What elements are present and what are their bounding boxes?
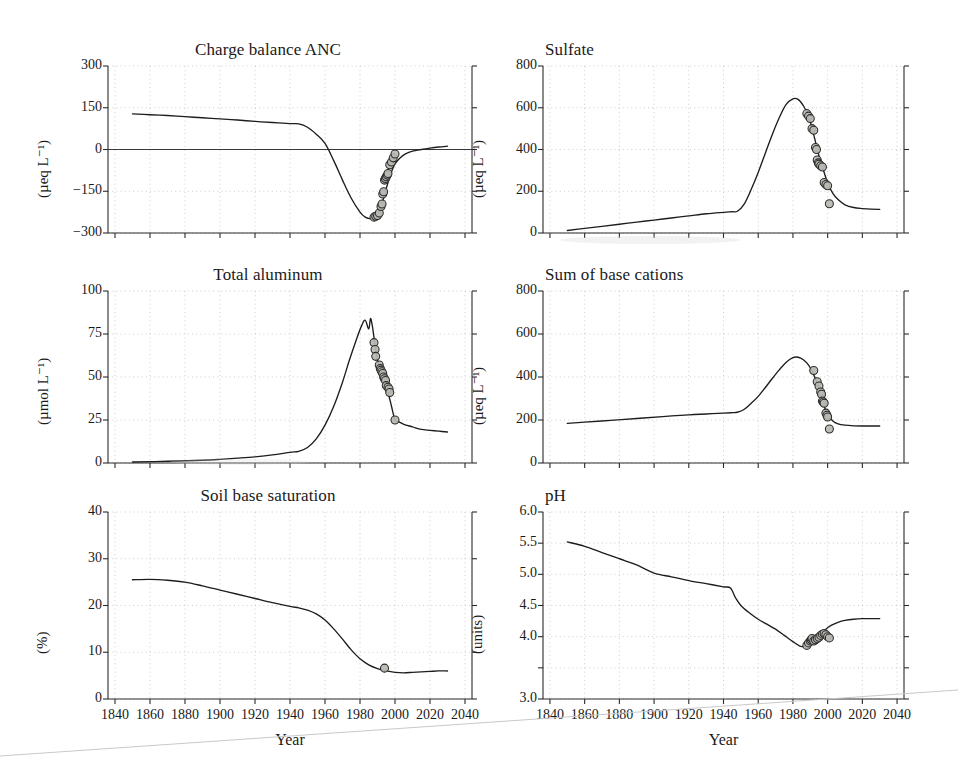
plot-canvas-ph [0,0,958,774]
ytick-label-ph: 5.5 [481,534,537,550]
x-axis-label-ph: Year [664,731,784,749]
xtick-label-ph: 2040 [867,707,927,723]
panel-ph [0,0,958,774]
ytick-label-ph: 4.5 [481,597,537,613]
ytick-label-ph: 4.0 [481,628,537,644]
ytick-label-ph: 5.0 [481,565,537,581]
series-line-ph [567,542,879,647]
panel-title-ph: pH [545,486,566,506]
y-axis-label-ph: (units) [469,614,486,653]
series-markers-ph [803,630,834,650]
magic-model-six-panel-figure: Charge balance ANC−300−1500150300(µeq L⁻… [0,0,958,774]
ytick-label-ph: 3.0 [481,690,537,706]
ytick-label-ph: 6.0 [481,503,537,519]
